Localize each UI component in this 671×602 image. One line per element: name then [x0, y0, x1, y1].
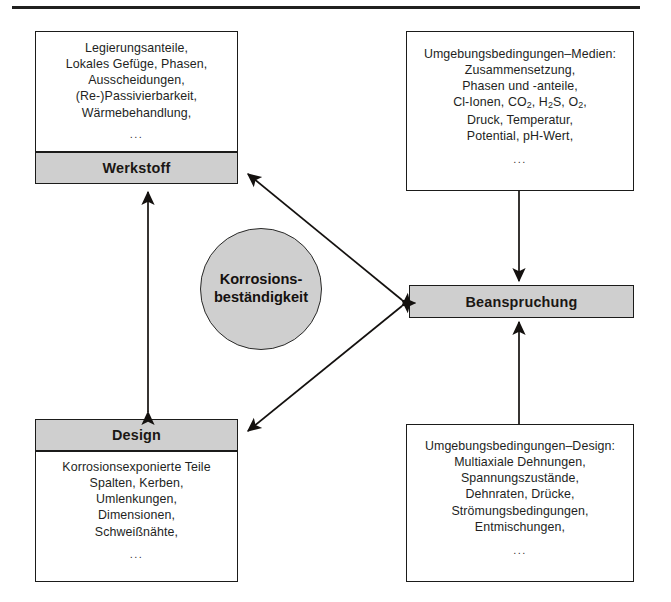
medien-item-chemicals: Cl-Ionen, CO2, H2S, O2,: [453, 94, 587, 112]
medien-item: Phasen und -anteile,: [462, 78, 578, 94]
medien-item: Zusammensetzung,: [465, 62, 575, 78]
design-item: Korrosionsexponierte Teile: [62, 459, 210, 475]
medien-heading: Umgebungsbedingungen–Medien:: [424, 46, 616, 62]
umgebung-design-item: Entmischungen,: [475, 519, 565, 535]
werkstoff-item: Legierungsanteile,: [85, 40, 188, 56]
medien-item: Druck, Temperatur,: [467, 112, 573, 128]
werkstoff-label-band[interactable]: Werkstoff: [35, 152, 238, 184]
umgebung-design-item: Multiaxiale Dehnungen,: [454, 454, 586, 470]
beanspruchung-band[interactable]: Beanspruchung: [409, 285, 634, 318]
werkstoff-item: Lokales Gefüge, Phasen,: [66, 56, 207, 72]
design-item: Umlenkungen,: [96, 491, 177, 507]
design-item: Spalten, Kerben,: [90, 475, 184, 491]
umgebung-design-text: Umgebungsbedingungen–Design: Multiaxiale…: [406, 438, 634, 582]
umgebung-design-ellipsis: ...: [513, 543, 527, 557]
werkstoff-detail-text: Legierungsanteile, Lokales Gefüge, Phase…: [35, 36, 238, 152]
medien-ellipsis: ...: [513, 152, 527, 166]
beanspruchung-label: Beanspruchung: [465, 294, 577, 310]
umgebung-design-item: Spannungszustände,: [461, 470, 579, 486]
werkstoff-ellipsis: ...: [130, 127, 144, 141]
werkstoff-label: Werkstoff: [103, 160, 171, 176]
werkstoff-item: Ausscheidungen,: [88, 72, 185, 88]
umgebung-design-item: Dehnraten, Drücke,: [465, 486, 574, 502]
design-detail-text: Korrosionsexponierte Teile Spalten, Kerb…: [35, 459, 238, 582]
umgebung-design-heading: Umgebungsbedingungen–Design:: [425, 438, 615, 454]
medien-item: Potential, pH-Wert,: [467, 128, 573, 144]
korrosionsbestaendigkeit-ellipse[interactable]: Korrosions- beständigkeit: [200, 228, 322, 350]
werkstoff-item: (Re-)Passivierbarkeit,: [76, 88, 197, 104]
ellipse-label-line1: Korrosions-: [220, 271, 303, 289]
figure-canvas: Legierungsanteile, Lokales Gefüge, Phase…: [0, 0, 671, 602]
design-item: Dimensionen,: [98, 507, 175, 523]
design-item: Schweißnähte,: [95, 524, 178, 540]
top-horizontal-rule: [12, 6, 640, 9]
ellipse-label-line2: beständigkeit: [214, 289, 308, 307]
design-label-band[interactable]: Design: [35, 419, 238, 451]
design-ellipsis: ...: [130, 547, 144, 561]
werkstoff-item: Wärmebehandlung,: [82, 105, 192, 121]
design-label: Design: [112, 427, 161, 443]
medien-text: Umgebungsbedingungen–Medien: Zusammenset…: [406, 46, 634, 191]
umgebung-design-item: Strömungsbedingungen,: [451, 503, 588, 519]
